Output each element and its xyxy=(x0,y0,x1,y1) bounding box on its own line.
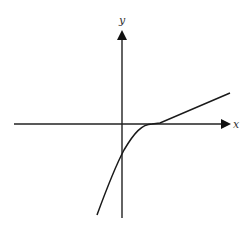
x-axis-label: x xyxy=(233,118,240,131)
function-graph: y x xyxy=(0,0,248,229)
function-curve xyxy=(97,93,230,215)
y-axis-label: y xyxy=(118,14,126,27)
